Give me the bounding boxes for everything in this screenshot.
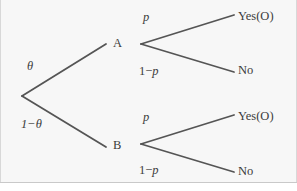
outcome-label-yes-top: Yes(O) (238, 10, 274, 23)
node-label-b: B (113, 139, 121, 152)
branch-label-one-minus-theta: 1−θ (21, 118, 42, 131)
decision-tree-figure: θ 1−θ A B p 1−p p 1−p Yes(O) No Yes(O) N… (0, 0, 297, 191)
one-minus-p-bottom-variable: p (152, 163, 158, 177)
branch-label-theta: θ (27, 60, 33, 73)
edge-a-to-yes (141, 15, 234, 44)
branch-label-one-minus-p-bottom: 1−p (139, 164, 159, 177)
one-minus-p-top-prefix: 1− (139, 64, 152, 78)
node-label-a: A (113, 37, 122, 50)
branch-label-p-bottom: p (143, 111, 149, 124)
edge-b-to-yes (141, 115, 234, 144)
outcome-label-yes-bottom: Yes(O) (238, 110, 274, 123)
edge-root-to-a (22, 44, 106, 96)
outcome-label-no-top: No (238, 64, 253, 77)
branch-label-one-minus-p-top: 1−p (139, 65, 159, 78)
one-minus-p-bottom-prefix: 1− (139, 163, 152, 177)
branch-label-p-top: p (143, 11, 149, 24)
outcome-label-no-bottom: No (238, 165, 253, 178)
one-minus-p-top-variable: p (152, 64, 158, 78)
